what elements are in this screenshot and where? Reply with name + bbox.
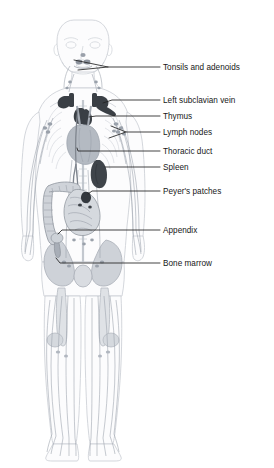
label-thymus: Thymus [163,112,192,121]
label-peyers-patches: Peyer's patches [163,187,221,196]
lymphatic-system-diagram: Tonsils and adenoids Left subclavian vei… [0,0,274,468]
label-left-subclavian-vein: Left subclavian vein [163,96,235,105]
label-bone-marrow: Bone marrow [163,259,212,268]
label-thoracic-duct: Thoracic duct [163,147,212,156]
label-spleen: Spleen [163,163,189,172]
label-tonsils-and-adenoids: Tonsils and adenoids [163,63,240,72]
femur-bone [47,288,119,347]
label-appendix: Appendix [163,226,197,235]
label-lymph-nodes: Lymph nodes [163,128,212,137]
